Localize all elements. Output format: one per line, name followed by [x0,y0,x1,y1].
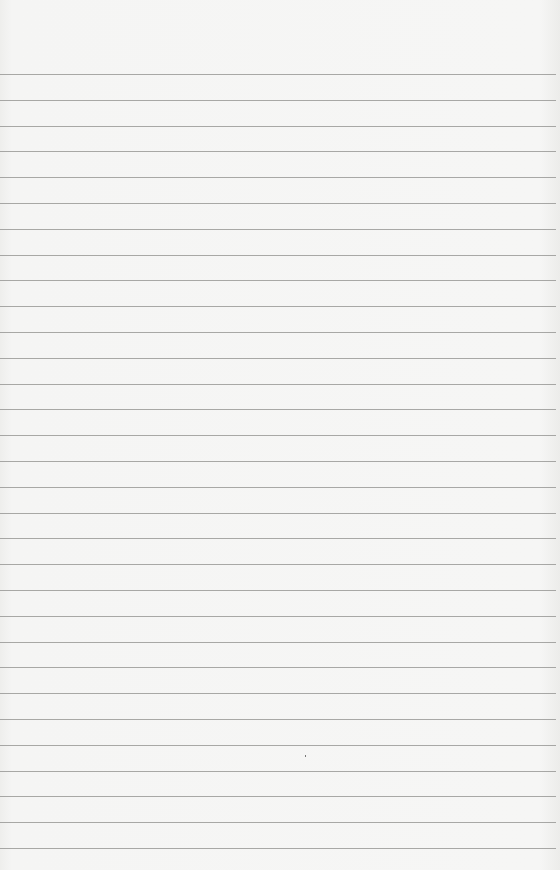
ruled-line [0,822,556,823]
ruled-line [0,796,556,797]
ruled-line [0,409,556,410]
ruled-line [0,151,556,152]
ruled-line [0,745,556,746]
ruled-line [0,280,556,281]
ruled-line [0,384,556,385]
ruled-line [0,177,556,178]
ruled-line [0,771,556,772]
ruled-line [0,229,556,230]
lined-paper [0,0,560,870]
ruled-line [0,590,556,591]
ruled-line [0,564,556,565]
ruled-line [0,487,556,488]
ruled-line [0,435,556,436]
ruled-line [0,203,556,204]
ruled-line [0,693,556,694]
ruled-line [0,461,556,462]
ruled-line [0,100,556,101]
ruled-line [0,332,556,333]
ruled-line [0,538,556,539]
ruled-line [0,642,556,643]
ruled-line [0,255,556,256]
ruled-line [0,513,556,514]
ruled-line [0,616,556,617]
ruled-line [0,667,556,668]
paper-speck [305,755,306,757]
ruled-line [0,306,556,307]
ruled-line [0,719,556,720]
ruled-line [0,126,556,127]
ruled-line [0,74,556,75]
ruled-line [0,358,556,359]
ruled-line [0,848,556,849]
